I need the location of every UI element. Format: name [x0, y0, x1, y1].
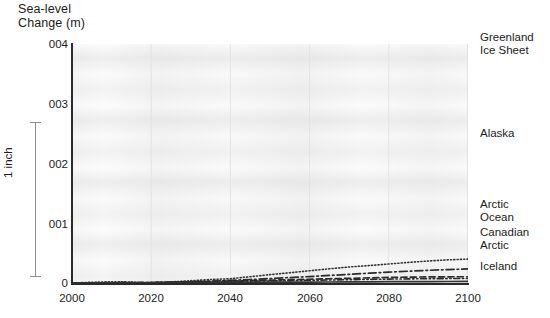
series-label-arctic-ocean: Arctic Ocean	[480, 198, 514, 223]
scale-bar-label: 1 inch	[2, 147, 14, 178]
x-tick-label-2100: 2100	[438, 292, 498, 304]
x-tick-label-2080: 2080	[359, 292, 419, 304]
series-layer	[72, 44, 468, 283]
series-label-iceland: Iceland	[480, 260, 517, 273]
x-tick-label-2060: 2060	[280, 292, 340, 304]
scale-bar-bottom-cap	[30, 276, 41, 277]
x-tick-label-2020: 2020	[121, 292, 181, 304]
scale-bar-1-inch	[30, 122, 41, 277]
x-tick-label-2000: 2000	[42, 292, 102, 304]
y-tick-label-003: 003	[28, 98, 68, 110]
sea-level-chart-figure: Sea-level Change (m) 004 003 002 001 0 2…	[0, 0, 550, 318]
series-label-alaska: Alaska	[480, 127, 515, 140]
x-axis-line	[71, 283, 469, 285]
y-tick-label-004: 004	[28, 38, 68, 50]
y-tick-label-0: 0	[28, 277, 68, 289]
x-tick-label-2040: 2040	[200, 292, 260, 304]
y-axis-line	[71, 43, 73, 284]
chart-axis-title: Sea-level Change (m)	[18, 2, 85, 30]
plot-area	[72, 44, 468, 283]
series-label-greenland-ice-sheet: Greenland Ice Sheet	[480, 31, 534, 56]
scale-bar-stem	[35, 122, 36, 277]
series-label-canadian-arctic: Canadian Arctic	[480, 226, 529, 251]
